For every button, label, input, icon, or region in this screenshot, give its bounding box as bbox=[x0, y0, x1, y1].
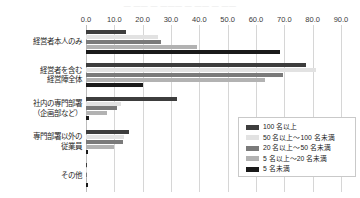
legend-label: 20 名以上～50 名未満 bbox=[263, 143, 331, 153]
x-tick-label: 10.0 bbox=[107, 14, 122, 25]
bar bbox=[86, 150, 88, 154]
y-category-label: 経営者本人のみ bbox=[0, 37, 82, 47]
bar bbox=[86, 145, 114, 149]
legend-swatch-icon bbox=[246, 167, 259, 172]
bar bbox=[86, 68, 316, 72]
x-tick-label: 0.0 bbox=[81, 14, 91, 25]
bar bbox=[86, 97, 177, 101]
x-tick-label: 80.0 bbox=[305, 14, 320, 25]
x-tick-label: 40.0 bbox=[192, 14, 207, 25]
x-tick-label: 60.0 bbox=[249, 14, 264, 25]
bar bbox=[86, 30, 126, 34]
y-category-label: 社内の専門部署 （企画部など） bbox=[0, 99, 82, 118]
bar bbox=[86, 130, 129, 134]
bar bbox=[86, 116, 89, 120]
chart-legend: 100 名以上50 名以上～100 名未満20 名以上～50 名未満5 名以上～… bbox=[238, 117, 356, 177]
bar bbox=[86, 140, 123, 144]
bar bbox=[86, 135, 124, 139]
bar bbox=[86, 102, 121, 106]
bar-chart: — —— — ——— — —— — —— 0.010.020.030.040.0… bbox=[0, 0, 360, 198]
legend-item[interactable]: 20 名以上～50 名未満 bbox=[246, 143, 351, 153]
legend-label: 50 名以上～100 名未満 bbox=[263, 133, 335, 143]
y-category-label: 経営者を含む 経営陣全体 bbox=[0, 66, 82, 85]
legend-label: 100 名以上 bbox=[263, 122, 297, 132]
legend-item[interactable]: 50 名以上～100 名未満 bbox=[246, 133, 351, 143]
bar bbox=[86, 178, 87, 182]
x-tick-label: 50.0 bbox=[220, 14, 235, 25]
x-tick-label: 70.0 bbox=[277, 14, 292, 25]
x-tick-label: 90.0 bbox=[334, 14, 349, 25]
x-axis-tick-labels: 0.010.020.030.040.050.060.070.080.090.0 bbox=[86, 14, 341, 25]
bar bbox=[86, 111, 107, 115]
bar-group bbox=[86, 25, 341, 58]
legend-item[interactable]: 100 名以上 bbox=[246, 122, 351, 132]
bar bbox=[86, 35, 158, 39]
bar bbox=[86, 73, 283, 77]
bar bbox=[86, 183, 88, 187]
legend-swatch-icon bbox=[246, 135, 259, 140]
bar bbox=[86, 40, 161, 44]
x-tick-label: 30.0 bbox=[164, 14, 179, 25]
x-tick-label: 20.0 bbox=[135, 14, 150, 25]
legend-swatch-icon bbox=[246, 146, 259, 151]
bar bbox=[86, 173, 87, 177]
bar-group bbox=[86, 58, 341, 91]
legend-swatch-icon bbox=[246, 125, 259, 130]
bar bbox=[86, 50, 280, 54]
bar bbox=[86, 78, 265, 82]
y-category-label: 専門部署以外の 従業員 bbox=[0, 132, 82, 151]
legend-item[interactable]: 5 名以上～20 名未満 bbox=[246, 154, 351, 164]
y-axis-category-labels: 経営者本人のみ経営者を含む 経営陣全体社内の専門部署 （企画部など）専門部署以外… bbox=[0, 25, 84, 192]
bar bbox=[86, 168, 87, 172]
y-category-label: その他 bbox=[0, 171, 82, 181]
legend-item[interactable]: 5 名未満 bbox=[246, 164, 351, 174]
bar bbox=[86, 45, 197, 49]
legend-label: 5 名以上～20 名未満 bbox=[263, 154, 327, 164]
bar bbox=[86, 163, 87, 167]
cut-off-header-text: — —— — ——— — —— — —— bbox=[0, 0, 360, 11]
legend-swatch-icon bbox=[246, 156, 259, 161]
legend-label: 5 名未満 bbox=[263, 164, 290, 174]
bar bbox=[86, 83, 143, 87]
bar bbox=[86, 106, 117, 110]
bar bbox=[86, 63, 306, 67]
